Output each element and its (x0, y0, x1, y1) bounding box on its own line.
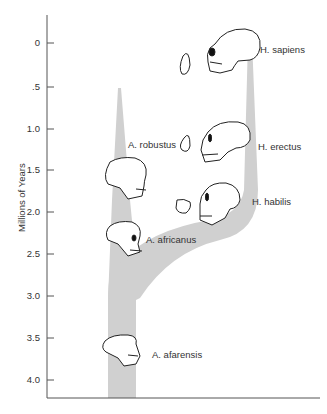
tick-3-5: 3.5 (10, 332, 40, 343)
tool-biface (180, 135, 190, 151)
label-a-africanus: A. africanus (146, 234, 196, 245)
tick-4-0: 4.0 (10, 374, 40, 385)
phylogeny-diagram: 0 .5 1.0 1.5 2.0 2.5 3.0 3.5 4.0 Million… (0, 0, 327, 414)
label-a-afarensis: A. afarensis (152, 349, 202, 360)
skull-a-robustus (105, 158, 146, 200)
tick-3-0: 3.0 (10, 290, 40, 301)
tick-1-0: 1.0 (10, 123, 40, 134)
label-h-erectus: H. erectus (258, 141, 301, 152)
label-h-sapiens: H. sapiens (260, 44, 305, 55)
label-a-robustus: A. robustus (128, 139, 176, 150)
tool-pebble (176, 199, 191, 213)
tick-0-5: .5 (10, 81, 40, 92)
tick-2-5: 2.5 (10, 248, 40, 259)
axis-title: Millions of Years (16, 163, 27, 232)
skull-h-erectus (201, 122, 250, 162)
tool-hand-axe (180, 53, 190, 74)
label-h-habilis: H. habilis (252, 196, 291, 207)
tick-0: 0 (10, 37, 40, 48)
